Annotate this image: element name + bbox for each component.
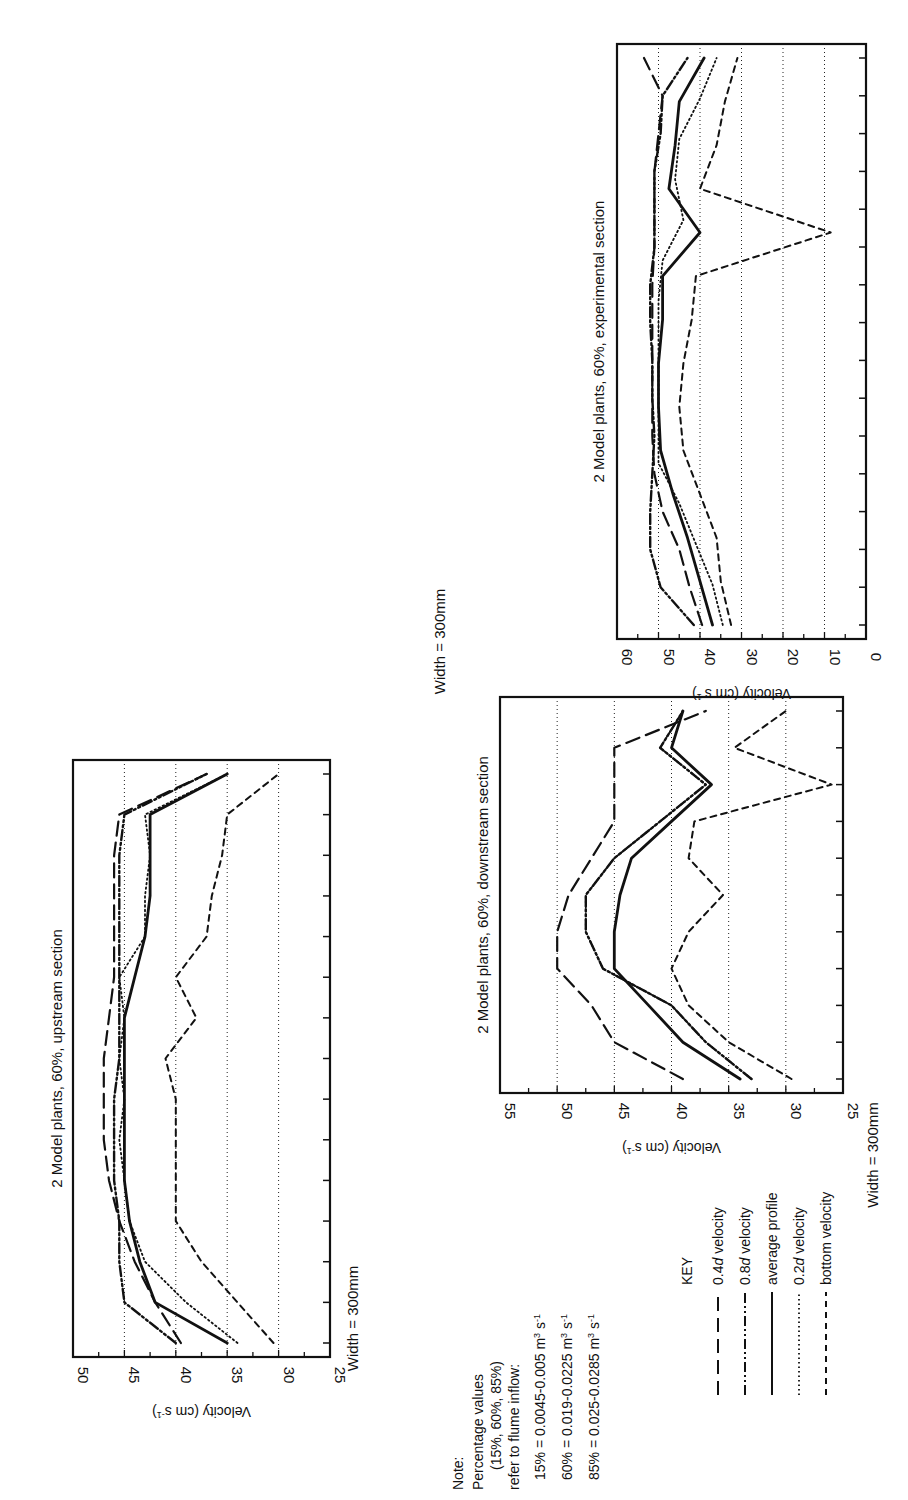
- legend-label-suffix: velocity: [710, 1207, 726, 1258]
- tick-label: 45: [616, 1103, 633, 1120]
- y-axis-label-text: Velocity (cm s: [635, 1140, 721, 1156]
- legend-entry-v08: 0.8d velocity: [737, 1207, 753, 1285]
- note-heading: Note:: [450, 1457, 466, 1490]
- tick-label: 20: [785, 649, 802, 666]
- x-axis-label: Width = 300mm: [344, 1266, 361, 1371]
- flow-note-text: 15% = 0.0045-0.005 m: [532, 1338, 548, 1480]
- tick-label: 50: [661, 649, 678, 666]
- note-line: (15%, 60%, 85%): [488, 1361, 504, 1470]
- x-axis-label: Width = 300mm: [431, 589, 448, 694]
- x-axis-label: Width = 300mm: [864, 1102, 881, 1207]
- tick-label: 25: [845, 1103, 862, 1120]
- series-v02-line: [119, 774, 237, 1343]
- note-line: Percentage values: [470, 1374, 486, 1490]
- flow-note-unit: s: [559, 1322, 575, 1333]
- tick-label: 60: [619, 649, 636, 666]
- plot-frame: [617, 44, 866, 639]
- figure: 253035404550Velocity (cm s-1)2 Model pla…: [0, 0, 908, 1500]
- tick-label: 30: [788, 1103, 805, 1120]
- legend-entry-v04: 0.4d velocity: [710, 1207, 726, 1285]
- legend-label: 0.4: [710, 1265, 726, 1285]
- flow-note: 85% = 0.025-0.0285 m3 s-1: [586, 1314, 602, 1480]
- tick-label: 50: [559, 1103, 576, 1120]
- flow-note-text: 60% = 0.019-0.0225 m: [559, 1338, 575, 1480]
- tick-label: 45: [126, 1367, 143, 1384]
- tick-label: 0: [868, 653, 885, 661]
- tick-label: 10: [827, 649, 844, 666]
- tick-label: 30: [281, 1367, 298, 1384]
- y-axis-label: Velocity (cm s-1): [622, 1140, 721, 1156]
- flow-note-unit: s: [586, 1322, 602, 1333]
- legend-label: average profile: [764, 1192, 780, 1285]
- flow-note: 15% = 0.0045-0.005 m3 s-1: [532, 1314, 548, 1480]
- legend-label-suffix: velocity: [791, 1207, 807, 1258]
- flow-note-unit: s: [532, 1322, 548, 1333]
- series-v08-line: [114, 774, 207, 1343]
- series-avg-line: [659, 58, 713, 625]
- flow-note-exp: -1: [559, 1314, 569, 1322]
- y-axis-label-end: ): [152, 1404, 157, 1420]
- y-axis-label-text: Velocity (cm s: [705, 686, 791, 702]
- y-axis-label: Velocity (cm s-1): [152, 1404, 251, 1420]
- series-bottom-line: [672, 711, 832, 1079]
- tick-label: 50: [75, 1367, 92, 1384]
- tick-label: 35: [229, 1367, 246, 1384]
- legend-title: KEY: [679, 1256, 695, 1285]
- legend-entry-bottom: bottom velocity: [818, 1192, 834, 1285]
- series-bottom-line: [679, 58, 830, 625]
- chart-downstream: 25303540455055Velocity (cm s-1)2 Model p…: [474, 697, 881, 1208]
- y-axis-label-end: ): [622, 1140, 627, 1156]
- flow-note-exp: -1: [532, 1314, 542, 1322]
- legend-entry-avg: average profile: [764, 1192, 780, 1285]
- chart-upstream: 253035404550Velocity (cm s-1)2 Model pla…: [48, 760, 361, 1420]
- series-v02-line: [586, 711, 752, 1079]
- flow-note-text: 85% = 0.025-0.0285 m: [586, 1338, 602, 1480]
- legend-label: 0.2: [791, 1265, 807, 1285]
- tick-label: 55: [502, 1103, 519, 1120]
- figure-canvas: 253035404550Velocity (cm s-1)2 Model pla…: [0, 0, 908, 1500]
- tick-label: 30: [744, 649, 761, 666]
- y-axis-label-end: ): [692, 686, 697, 702]
- note-line: refer to flume inflow:: [506, 1364, 522, 1490]
- y-axis-label-sup: -1: [157, 1410, 165, 1420]
- legend-entry-v02: 0.2d velocity: [791, 1207, 807, 1285]
- series-v08-line: [586, 711, 752, 1079]
- legend-label: bottom velocity: [818, 1192, 834, 1285]
- flow-note: 60% = 0.019-0.0225 m3 s-1: [559, 1314, 575, 1480]
- flow-note-exp: -1: [586, 1314, 596, 1322]
- chart-title: 2 Model plants, 60%, downstream section: [474, 756, 491, 1034]
- plot-frame: [73, 760, 330, 1357]
- tick-label: 40: [702, 649, 719, 666]
- chart-experimental: 0102030405060Velocity (cm s-1)2 Model pl…: [431, 44, 885, 702]
- series-bottom-line: [166, 774, 279, 1343]
- series-avg-line: [614, 711, 740, 1079]
- tick-label: 40: [178, 1367, 195, 1384]
- tick-label: 35: [731, 1103, 748, 1120]
- y-axis-label-text: Velocity (cm s: [165, 1404, 251, 1420]
- legend-label-suffix: velocity: [737, 1207, 753, 1258]
- chart-title: 2 Model plants, 60%, upstream section: [48, 929, 65, 1187]
- y-axis-label: Velocity (cm s-1): [692, 686, 791, 702]
- series-v02-line: [659, 58, 723, 625]
- note-and-key: Note:Percentage values(15%, 60%, 85%)ref…: [450, 1192, 834, 1490]
- tick-label: 40: [674, 1103, 691, 1120]
- series-avg-line: [124, 774, 227, 1343]
- legend-label: 0.8: [737, 1265, 753, 1285]
- chart-title: 2 Model plants, 60%, experimental sectio…: [590, 201, 607, 483]
- y-axis-label-sup: -1: [627, 1146, 635, 1156]
